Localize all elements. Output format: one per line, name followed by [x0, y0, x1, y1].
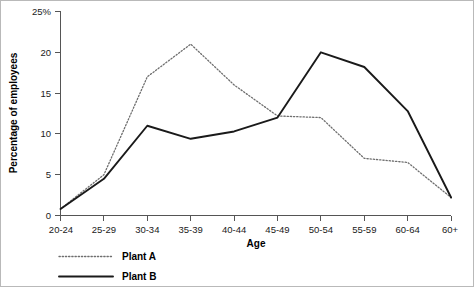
x-tick-label: 40-44	[222, 224, 246, 235]
y-axis-ticks	[55, 12, 61, 216]
x-tick-label: 50-54	[309, 224, 333, 235]
y-tick-label: 0	[46, 210, 51, 221]
y-axis-title: Percentage of employees	[8, 52, 19, 173]
x-tick-label: 20-24	[49, 224, 73, 235]
line-chart: 25% 20 15 10 5 0 20-24 25-29 30-34 35-39	[1, 1, 474, 287]
legend-label-plant-a: Plant A	[122, 251, 156, 262]
chart-legend: Plant A Plant B	[59, 251, 156, 282]
x-tick-label: 55-59	[352, 224, 376, 235]
x-tick-label: 60+	[442, 224, 459, 235]
x-tick-label: 25-29	[92, 224, 116, 235]
y-tick-label: 25%	[32, 6, 52, 17]
y-axis-tick-labels: 25% 20 15 10 5 0	[32, 6, 52, 221]
chart-figure: 25% 20 15 10 5 0 20-24 25-29 30-34 35-39	[0, 0, 474, 287]
series-line-plant-b	[61, 52, 452, 209]
x-axis-tick-labels: 20-24 25-29 30-34 35-39 40-44 45-49 50-5…	[49, 224, 459, 235]
x-axis-title: Age	[247, 238, 266, 249]
legend-label-plant-b: Plant B	[122, 271, 156, 282]
x-axis-ticks	[61, 216, 452, 222]
y-tick-label: 15	[40, 88, 51, 99]
series-line-plant-a	[61, 44, 452, 209]
x-tick-label: 60-64	[396, 224, 420, 235]
y-tick-label: 20	[40, 47, 51, 58]
y-tick-label: 5	[46, 169, 51, 180]
x-tick-label: 45-49	[265, 224, 289, 235]
y-tick-label: 10	[40, 128, 51, 139]
x-tick-label: 35-39	[179, 224, 203, 235]
x-tick-label: 30-34	[135, 224, 159, 235]
